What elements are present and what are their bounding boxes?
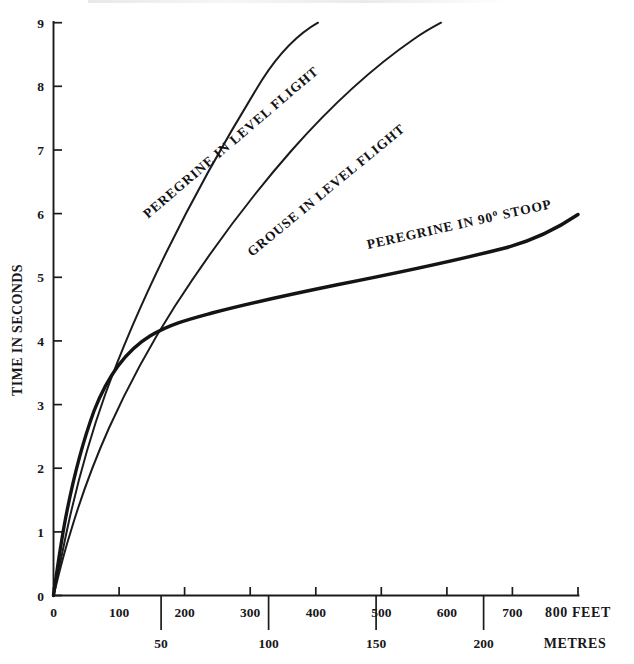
y-tick-label-0: 0: [37, 589, 44, 604]
curve-label-stoop-suffix: STOOP: [497, 196, 553, 222]
x-tick-label-metres-200: 200: [473, 636, 494, 651]
x-tick-label-feet-0: 0: [50, 605, 57, 620]
data-curves: [54, 23, 579, 596]
x-tick-label-feet-300: 300: [240, 605, 261, 620]
x-tick-label-metres-150: 150: [366, 636, 387, 651]
x-axis-feet: 0 100 200 300 400 500 600 700 800 FEET: [50, 587, 611, 620]
y-axis-title: TIME IN SECONDS: [10, 264, 25, 396]
y-tick-label-7: 7: [37, 143, 44, 158]
scan-artifact-stripe: [88, 0, 508, 3]
x-tick-label-metres-50: 50: [154, 636, 168, 651]
y-tick-label-3: 3: [37, 398, 44, 413]
x-axis-feet-unit-label: 800 FEET: [545, 605, 611, 620]
x-tick-label-feet-200: 200: [174, 605, 195, 620]
curve-label-peregrine-level-flight: PEREGRINE IN LEVEL FLIGHT: [140, 63, 321, 221]
x-axis-feet-ticks: [54, 587, 579, 596]
y-tick-label-6: 6: [37, 207, 44, 222]
x-tick-label-feet-500: 500: [371, 605, 392, 620]
curve-peregrine-stoop: [54, 215, 579, 596]
curve-grouse-level-flight: [54, 23, 442, 596]
x-tick-label-feet-600: 600: [437, 605, 458, 620]
chart-svg: 0 1 2 3 4 5 6 7 8 9 TIME IN SECONDS: [0, 0, 634, 664]
x-axis-metres: 50 100 150 200 METRES: [154, 596, 606, 652]
y-tick-label-8: 8: [37, 79, 44, 94]
y-axis-ticks: [54, 23, 63, 596]
y-axis: 0 1 2 3 4 5 6 7 8 9 TIME IN SECONDS: [10, 16, 62, 604]
y-tick-label-5: 5: [37, 270, 44, 285]
x-tick-label-feet-700: 700: [502, 605, 523, 620]
x-tick-label-feet-400: 400: [306, 605, 327, 620]
x-axis-metres-unit-label: METRES: [544, 636, 607, 651]
y-tick-label-2: 2: [37, 461, 44, 476]
x-tick-label-feet-100: 100: [109, 605, 130, 620]
curve-label-stoop-prefix: PEREGRINE IN 90: [365, 209, 494, 252]
x-tick-label-metres-100: 100: [258, 636, 279, 651]
chart-figure: 0 1 2 3 4 5 6 7 8 9 TIME IN SECONDS: [0, 0, 634, 664]
y-tick-label-9: 9: [37, 16, 44, 31]
y-tick-label-1: 1: [37, 525, 44, 540]
y-tick-label-4: 4: [37, 334, 44, 349]
